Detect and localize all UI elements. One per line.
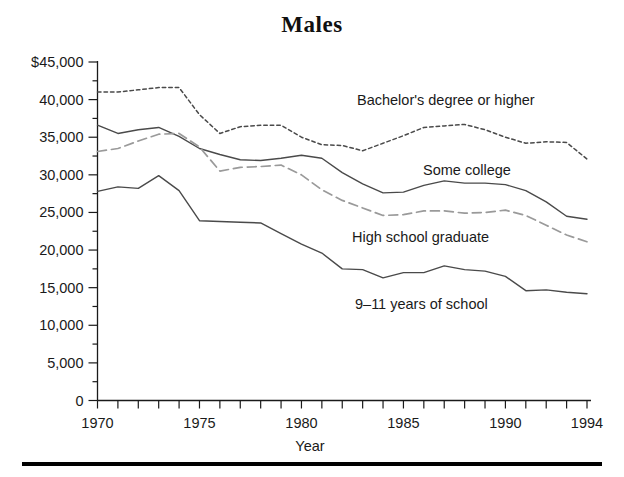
y-axis-tick-label: $45,000 — [31, 54, 83, 70]
footer-rule — [22, 462, 602, 466]
series-label-high-school: High school graduate — [352, 229, 489, 245]
series-label-some-college: Some college — [423, 162, 511, 178]
x-axis-title: Year — [295, 438, 324, 454]
x-axis-tick-label: 1970 — [81, 415, 113, 431]
x-axis-tick-label: 1985 — [387, 415, 419, 431]
y-axis-tick-label: 10,000 — [39, 317, 83, 333]
x-axis-tick-label: 1990 — [489, 415, 521, 431]
y-axis-tick-label: 30,000 — [39, 167, 83, 183]
y-axis-tick-label: 15,000 — [39, 280, 83, 296]
x-axis-tick-label: 1980 — [285, 415, 317, 431]
x-axis-tick-label: 1975 — [183, 415, 215, 431]
y-axis-tick-label: 5,000 — [47, 355, 83, 371]
series-label-bachelors: Bachelor's degree or higher — [357, 92, 535, 108]
y-axis-tick-label: 20,000 — [39, 242, 83, 258]
chart-figure: Males $45,00040,00035,00030,00025,00020,… — [0, 0, 624, 477]
series-line-3 — [98, 176, 588, 294]
y-axis-tick-label: 0 — [75, 393, 83, 409]
chart-plot-area: $45,00040,00035,00030,00025,00020,00015,… — [0, 0, 624, 477]
y-axis-tick-label: 40,000 — [39, 92, 83, 108]
series-label-9-11-years: 9–11 years of school — [355, 296, 488, 312]
y-axis-tick-label: 35,000 — [39, 129, 83, 145]
x-axis-tick-label: 1994 — [571, 415, 603, 431]
y-axis-tick-label: 25,000 — [39, 204, 83, 220]
